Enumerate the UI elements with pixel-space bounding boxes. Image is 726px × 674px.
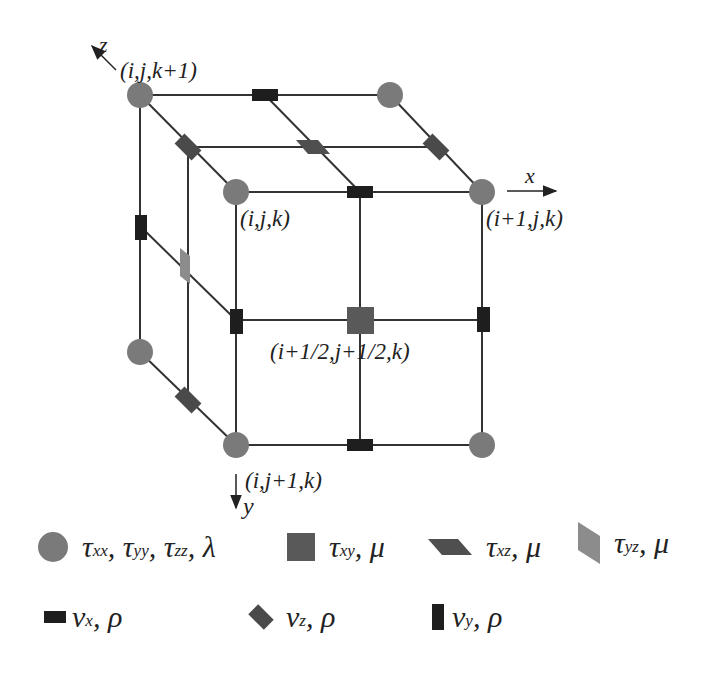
node-circle — [377, 82, 403, 108]
label-front-top-right: (i+1,j,k) — [486, 206, 563, 231]
node-circle — [469, 179, 495, 205]
vy-marker — [230, 309, 243, 334]
staggered-grid-diagram: z x y (i,j,k+1) (i,j,k) (i+1,j,k) (i+1/2… — [0, 0, 726, 674]
x-axis-label: x — [524, 163, 535, 188]
node-circle — [469, 432, 495, 458]
label-front-bottom-left: (i,j+1,k) — [245, 468, 322, 493]
z-axis-label: z — [98, 32, 108, 57]
node-circle — [223, 432, 249, 458]
node-circle — [223, 179, 249, 205]
vz-marker — [423, 134, 450, 161]
y-axis-label: y — [241, 493, 254, 519]
node-circle — [127, 339, 153, 365]
label-center: (i+1/2,j+1/2,k) — [270, 339, 410, 364]
vx-marker — [252, 89, 278, 101]
label-front-top-left: (i,j,k) — [240, 206, 290, 231]
vy-marker — [135, 215, 147, 240]
vx-marker — [347, 186, 373, 198]
vz-marker — [175, 134, 202, 161]
label-back-top-left: (i,j,k+1) — [120, 58, 197, 83]
velocity-z-markers — [175, 134, 450, 414]
node-circle — [127, 82, 153, 108]
shear-xy-marker — [347, 307, 374, 334]
vx-marker — [347, 439, 373, 451]
vy-marker — [477, 307, 490, 332]
